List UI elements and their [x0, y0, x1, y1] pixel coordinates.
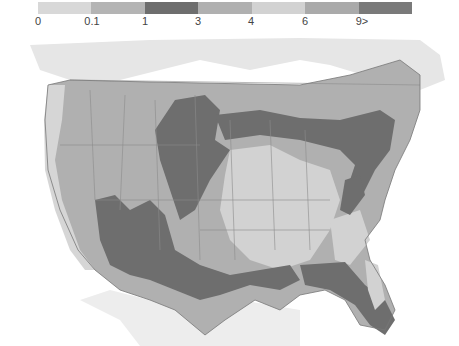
legend-swatch-1: [91, 2, 144, 14]
legend-swatch-3: [198, 2, 251, 14]
legend-label: 1: [142, 15, 148, 27]
legend-label: 4: [248, 15, 254, 27]
legend-swatch-4: [252, 2, 305, 14]
us-map: [0, 30, 459, 346]
legend-label: 9>: [356, 15, 369, 27]
legend-label: 6: [302, 15, 308, 27]
legend-swatch-5: [305, 2, 358, 14]
legend-swatch-6: [359, 2, 412, 14]
legend-swatch-2: [145, 2, 198, 14]
legend-swatch-0: [38, 2, 91, 14]
legend-colorbar: [38, 2, 412, 14]
legend-label: 3: [195, 15, 201, 27]
legend-label: 0.1: [84, 15, 99, 27]
legend-label: 0: [35, 15, 41, 27]
legend-labels: 0 0.1 1 3 4 6 9>: [0, 15, 459, 29]
